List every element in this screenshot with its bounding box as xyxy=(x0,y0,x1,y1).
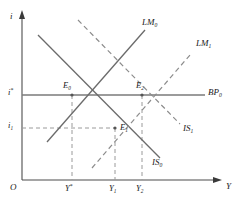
x-axis-label: Y xyxy=(226,182,231,191)
origin-label: O xyxy=(10,183,17,192)
is-lm-bp-diagram: i Y O i* i1 Y* Y1 Y2 LM0 LM1 IS0 IS1 BP0… xyxy=(0,0,244,212)
curve-is1 xyxy=(78,20,180,124)
curve-label-is0: IS0 xyxy=(152,158,162,167)
point-e1-marker xyxy=(113,126,116,129)
tick-label-y1: Y1 xyxy=(109,184,116,193)
x-axis-arrow-icon xyxy=(213,177,222,183)
curve-lm0 xyxy=(47,30,145,142)
curve-label-is1: IS1 xyxy=(183,124,193,133)
point-label-e0: E0 xyxy=(63,81,71,90)
tick-label-i1: i1 xyxy=(8,121,13,130)
axes-group xyxy=(19,10,222,183)
point-e0-marker xyxy=(70,93,73,96)
y-axis-arrow-icon xyxy=(19,10,25,19)
curve-label-bp0: BP0 xyxy=(208,88,222,97)
tick-label-i-star: i* xyxy=(8,88,13,97)
tick-label-y2: Y2 xyxy=(136,184,143,193)
equilibrium-points-group xyxy=(70,93,143,129)
point-label-e1: E1 xyxy=(120,123,128,132)
curve-label-lm0: LM0 xyxy=(142,18,157,27)
point-e2-marker xyxy=(140,93,143,96)
point-label-e2: E2 xyxy=(136,81,144,90)
diagram-canvas xyxy=(0,0,244,212)
tick-label-y-star: Y* xyxy=(65,184,73,193)
y-axis-label: i xyxy=(10,12,13,21)
curve-lm1 xyxy=(92,55,190,168)
guide-lines-group xyxy=(22,95,142,180)
curve-label-lm1: LM1 xyxy=(196,39,211,48)
